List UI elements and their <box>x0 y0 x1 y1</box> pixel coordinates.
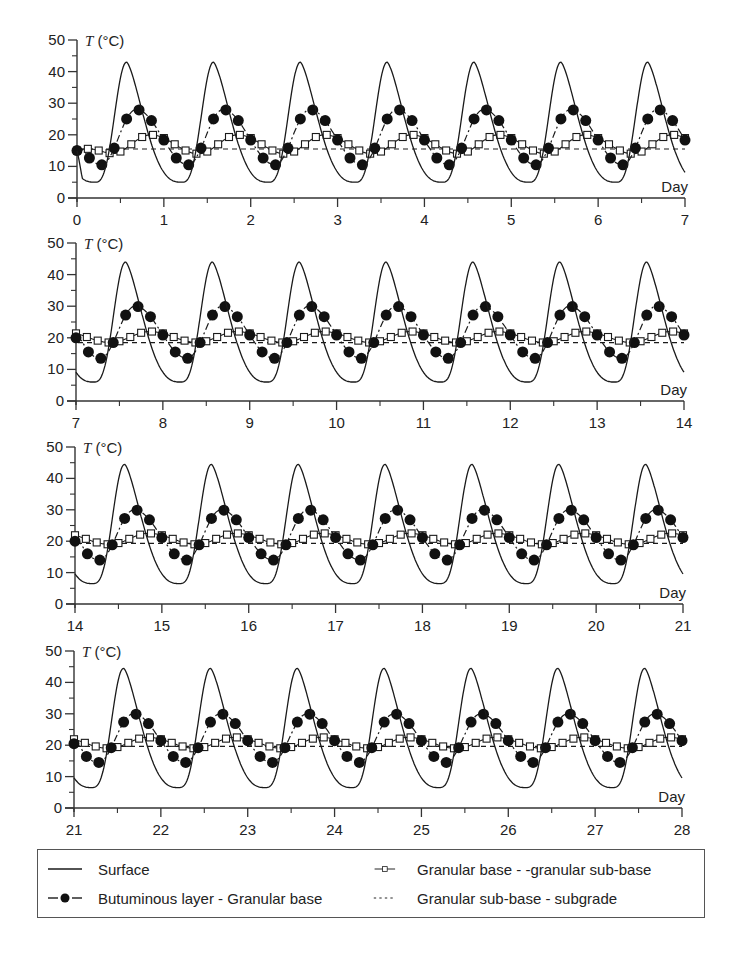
solid-line-icon <box>46 861 84 877</box>
y-tick-label: 40 <box>46 469 63 486</box>
x-tick-label: 23 <box>239 821 256 838</box>
temperature-chart: 01020304050T (°C)01234567Day 01020304050… <box>0 0 739 957</box>
chart-panel-days-21-28: 01020304050T (°C)2122232425262728Day <box>45 642 690 838</box>
x-tick-label: 8 <box>159 414 167 431</box>
x-tick-label: 19 <box>501 617 518 634</box>
y-tick-label: 30 <box>47 297 64 314</box>
legend-label: Granular base - -granular sub-base <box>417 861 651 878</box>
series-surface <box>75 464 683 583</box>
y-axis-title: T (°C) <box>82 643 121 660</box>
series-surface <box>76 262 684 382</box>
x-tick-label: 27 <box>587 821 604 838</box>
legend-item-subgrade: Granular sub-base - subgrade <box>373 886 617 910</box>
y-tick-label: 20 <box>45 736 62 753</box>
x-axis-title: Day <box>661 178 688 195</box>
dash-filled-circle-icon <box>46 890 84 906</box>
y-tick-label: 50 <box>45 642 62 659</box>
x-tick-label: 7 <box>681 211 689 228</box>
x-tick-label: 16 <box>240 617 257 634</box>
y-tick-label: 10 <box>46 564 63 581</box>
x-tick-label: 15 <box>154 617 171 634</box>
y-tick-label: 30 <box>48 94 65 111</box>
y-axis-title: T (°C) <box>83 439 122 456</box>
y-tick-label: 40 <box>47 266 64 283</box>
x-tick-label: 21 <box>66 821 83 838</box>
y-tick-label: 20 <box>47 329 64 346</box>
x-tick-label: 10 <box>328 414 345 431</box>
y-tick-label: 50 <box>47 234 64 251</box>
y-axis-title: T (°C) <box>85 32 124 49</box>
y-tick-label: 50 <box>48 31 65 48</box>
x-tick-label: 17 <box>327 617 344 634</box>
legend-item-surface: Surface <box>46 857 150 881</box>
x-tick-label: 3 <box>333 211 341 228</box>
x-tick-label: 2 <box>247 211 255 228</box>
y-tick-label: 10 <box>48 157 65 174</box>
x-tick-label: 13 <box>589 414 606 431</box>
x-tick-label: 12 <box>502 414 519 431</box>
dashed-line-icon <box>373 890 403 906</box>
y-tick-label: 0 <box>54 799 62 816</box>
legend-label: Surface <box>98 861 150 878</box>
y-tick-label: 0 <box>56 392 64 409</box>
legend-item-bituminous-layer: Butuminous layer - Granular base <box>46 886 322 910</box>
x-tick-label: 0 <box>73 211 81 228</box>
x-axis-title: Day <box>659 584 686 601</box>
x-tick-label: 18 <box>414 617 431 634</box>
y-tick-label: 50 <box>46 438 63 455</box>
chart-panel-days-0-7: 01020304050T (°C)01234567Day <box>48 31 690 228</box>
x-tick-label: 4 <box>420 211 428 228</box>
y-tick-label: 30 <box>46 501 63 518</box>
x-tick-label: 20 <box>588 617 605 634</box>
x-tick-label: 9 <box>246 414 254 431</box>
x-tick-label: 21 <box>675 617 692 634</box>
x-tick-label: 26 <box>500 821 517 838</box>
y-tick-label: 20 <box>46 532 63 549</box>
y-tick-label: 40 <box>48 63 65 80</box>
y-tick-label: 0 <box>57 189 65 206</box>
y-tick-label: 10 <box>45 768 62 785</box>
legend-item-granular-base: Granular base - -granular sub-base <box>373 857 651 881</box>
x-tick-label: 1 <box>160 211 168 228</box>
x-tick-label: 24 <box>326 821 343 838</box>
x-tick-label: 14 <box>67 617 84 634</box>
x-axis-title: Day <box>658 788 685 805</box>
y-tick-label: 20 <box>48 126 65 143</box>
x-tick-label: 11 <box>416 414 432 431</box>
x-tick-label: 28 <box>674 821 691 838</box>
x-tick-label: 6 <box>594 211 602 228</box>
chart-panel-days-14-21: 01020304050T (°C)1415161718192021Day <box>46 438 691 634</box>
y-axis-title: T (°C) <box>84 235 123 252</box>
chart-panel-days-7-14: 01020304050T (°C)7891011121314Day <box>47 234 692 431</box>
y-tick-label: 10 <box>47 360 64 377</box>
legend-label: Butuminous layer - Granular base <box>98 890 322 907</box>
x-tick-label: 25 <box>413 821 430 838</box>
legend-label: Granular sub-base - subgrade <box>417 890 617 907</box>
x-tick-label: 14 <box>676 414 693 431</box>
series-surface <box>74 668 682 787</box>
y-tick-label: 0 <box>55 595 63 612</box>
y-tick-label: 30 <box>45 705 62 722</box>
y-tick-label: 40 <box>45 673 62 690</box>
line-open-square-icon <box>373 861 403 877</box>
x-tick-label: 7 <box>72 414 80 431</box>
x-tick-label: 22 <box>153 821 170 838</box>
series-surface <box>77 62 685 182</box>
chart-legend: Surface Granular base - -granular sub-ba… <box>37 849 705 918</box>
x-axis-title: Day <box>660 381 687 398</box>
x-tick-label: 5 <box>507 211 515 228</box>
